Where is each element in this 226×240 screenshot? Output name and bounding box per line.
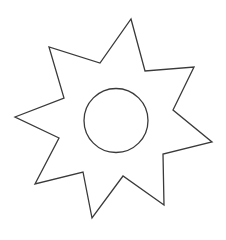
center-circle-shape <box>84 89 148 153</box>
eight-pointed-star-shape <box>15 19 212 218</box>
figure-canvas <box>0 0 226 240</box>
star-diagram <box>0 0 226 240</box>
